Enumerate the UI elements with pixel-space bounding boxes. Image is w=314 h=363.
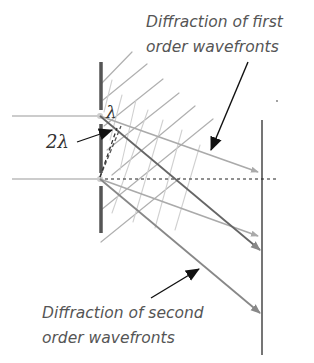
first-order-pointer [211,62,248,150]
second-order-pointer [151,269,199,298]
stray-dot [276,100,278,102]
two-lambda-label: 2λ [45,131,69,152]
lambda-label: λ [105,102,117,122]
first-order-label-line2: order wavefronts [146,38,279,56]
second-order-ray-lower [100,179,260,313]
double-slit-diagram: λ 2λ Diffraction of first order wavefron… [0,0,314,363]
first-order-label-line1: Diffraction of first [146,13,284,31]
first-order-ray-upper [100,116,258,172]
two-lambda-pointer [77,130,112,142]
second-order-label-line2: order wavefronts [42,329,175,347]
second-order-label-line1: Diffraction of second [42,304,204,322]
